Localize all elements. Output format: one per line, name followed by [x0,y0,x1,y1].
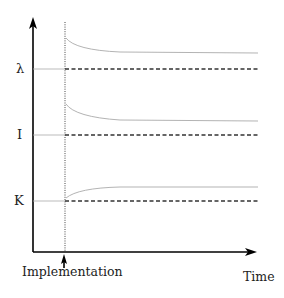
implementation-label: Implementation [22,266,123,279]
lambda-curve [66,38,258,53]
k-label: K [14,194,24,207]
i-label: I [17,128,22,141]
i-curve [66,104,258,121]
time-label: Time [243,271,275,284]
lambda-label: λ [16,62,24,75]
k-curve [66,187,258,198]
diagram-canvas [0,0,284,298]
